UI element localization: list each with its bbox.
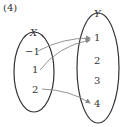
- mapping-arrow: [40, 40, 90, 70]
- domain-set-name: X: [29, 27, 38, 38]
- domain-element: 2: [32, 84, 38, 95]
- codomain-element: 4: [94, 98, 100, 109]
- mapping-diagram: (4) X Y −1 1 2 1 2 3 4: [0, 0, 121, 127]
- domain-element: 1: [32, 64, 38, 75]
- mapping-arrow: [42, 89, 90, 103]
- codomain-element: 2: [94, 55, 100, 66]
- codomain-element: 1: [94, 32, 100, 43]
- problem-label: (4): [3, 2, 17, 13]
- domain-element: −1: [25, 46, 40, 57]
- codomain-element: 3: [94, 75, 100, 86]
